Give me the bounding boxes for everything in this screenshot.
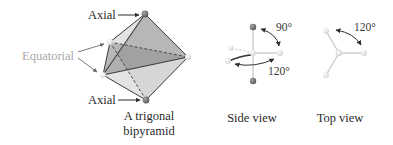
equatorial-atom-back [107, 39, 113, 45]
equatorial-label: Equatorial [22, 50, 74, 63]
bipyramid-caption-line1: A trigonal [112, 109, 186, 124]
top-view [323, 28, 367, 78]
bipyramid-caption-line2: bipyramid [112, 124, 186, 139]
axial-bottom-label: Axial [88, 94, 116, 107]
axial-top-label: Axial [88, 9, 116, 22]
side-90-degree-label: 90° [276, 22, 292, 34]
top-view-caption: Top view [310, 111, 370, 126]
axial-atom-top [142, 11, 149, 18]
equatorial-atom-front [100, 72, 106, 78]
bipyramid-caption: A trigonal bipyramid [112, 109, 186, 139]
top-120-degree-label: 120° [354, 22, 376, 34]
equatorial-atom-right [185, 54, 191, 60]
side-view-caption: Side view [222, 111, 282, 126]
equatorial-arrow-1 [78, 44, 104, 52]
side-120-degree-label: 120° [268, 66, 290, 78]
axial-atom-bottom [143, 97, 150, 104]
equatorial-arrow-2 [78, 58, 97, 72]
bipyramid [100, 11, 191, 104]
